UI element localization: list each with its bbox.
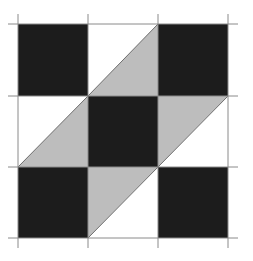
solid-square-0-2 — [158, 24, 228, 96]
quilt-block-diagram — [0, 0, 253, 261]
solid-square-2-0 — [18, 167, 88, 238]
solid-square-0-0 — [18, 24, 88, 96]
solid-square-2-2 — [158, 167, 228, 238]
solid-square-1-1 — [88, 96, 158, 167]
quilt-cells — [18, 24, 228, 238]
